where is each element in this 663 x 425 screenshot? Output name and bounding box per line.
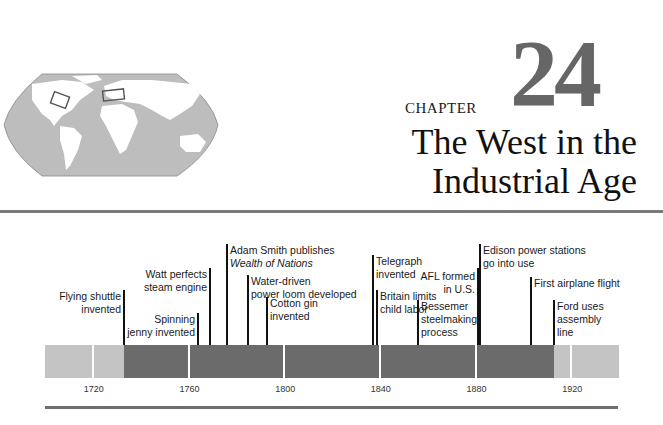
timeline-gridline [379, 345, 381, 378]
event-text-label-2: go into use [483, 257, 534, 269]
title-divider [0, 210, 663, 213]
timeline-event-label: Cotton gininvented [270, 297, 318, 323]
event-text-label-2: steam engine [144, 281, 207, 293]
timeline-year-label: 1760 [179, 384, 199, 394]
event-text-label-1: Flying shuttle [59, 290, 121, 302]
event-marker [479, 244, 481, 345]
chapter-title-line-2: Industrial Age [432, 163, 637, 199]
event-text-label-2: in U.S. [443, 283, 475, 295]
event-marker [247, 275, 249, 345]
event-marker [372, 255, 374, 345]
timeline-event-label: Bessemersteelmakingprocess [421, 300, 477, 339]
timeline-year-label: 1800 [275, 384, 295, 394]
event-text-label-1: AFL formed [421, 270, 475, 282]
timeline-event-label: Telegraphinvented [376, 255, 422, 281]
event-text-label-2: Wealth of Nations [230, 257, 313, 269]
event-marker [553, 300, 555, 345]
timeline-event-label: First airplane flight [534, 277, 620, 290]
timeline-gridline [283, 345, 285, 378]
event-marker [376, 290, 378, 345]
event-marker [123, 290, 125, 345]
timeline-event-label: Watt perfectssteam engine [144, 268, 207, 294]
timeline-gridline [570, 345, 572, 378]
event-text-label-1: First airplane flight [534, 277, 620, 289]
event-text-label-1: Cotton gin [270, 297, 318, 309]
chapter-number: 24 [510, 26, 598, 122]
event-text-label-3: process [421, 326, 458, 338]
event-marker [226, 244, 228, 345]
event-marker [417, 300, 419, 345]
event-text-label-1: Bessemer [421, 300, 468, 312]
event-text-label-1: Telegraph [376, 255, 422, 267]
event-text-label-1: Water-driven [251, 275, 311, 287]
timeline-bar [45, 345, 619, 378]
chapter-title-line-1: The West in the [412, 124, 637, 160]
timeline-bottom-rule [45, 406, 618, 409]
timeline-event-label: Flying shuttleinvented [59, 290, 121, 316]
timeline-year-label: 1720 [84, 384, 104, 394]
chapter-label: CHAPTER [405, 100, 477, 117]
timeline-year-label: 1840 [371, 384, 391, 394]
event-text-label-2: steelmaking [421, 313, 477, 325]
event-marker [197, 313, 199, 345]
timeline-event-label: Spinningjenny invented [127, 313, 195, 339]
timeline-event-label: Ford usesassemblyline [557, 300, 604, 339]
timeline-gridline [188, 345, 190, 378]
event-text-label-3: line [557, 326, 573, 338]
timeline-year-label: 1880 [466, 384, 486, 394]
timeline-event-label: Adam Smith publishesWealth of Nations [230, 244, 334, 270]
event-marker [266, 297, 268, 345]
timeline-event-label: AFL formedin U.S. [421, 270, 475, 296]
timeline-year-label: 1920 [562, 384, 582, 394]
event-marker [530, 277, 532, 345]
event-text-label-2: invented [81, 303, 121, 315]
timeline-segment-before [45, 345, 124, 378]
event-text-label-2: invented [270, 310, 310, 322]
event-text-label-2: assembly [557, 313, 601, 325]
timeline-segment-after [554, 345, 619, 378]
event-text-label-1: Watt perfects [146, 268, 207, 280]
event-marker [209, 268, 211, 345]
timeline-event-label: Edison power stationsgo into use [483, 244, 586, 270]
event-text-label-2: invented [376, 268, 416, 280]
event-text-label-1: Adam Smith publishes [230, 244, 334, 256]
timeline-gridline [475, 345, 477, 378]
event-text-label-2: jenny invented [127, 326, 195, 338]
event-text-label-1: Ford uses [557, 300, 604, 312]
event-text-label-1: Edison power stations [483, 244, 586, 256]
timeline-gridline [92, 345, 94, 378]
event-text-label-1: Spinning [154, 313, 195, 325]
world-map-icon [2, 70, 220, 180]
